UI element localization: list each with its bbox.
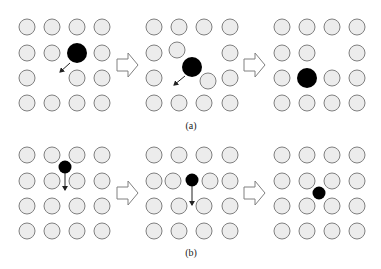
lattice-atom bbox=[349, 45, 365, 61]
lattice-atom bbox=[349, 198, 365, 214]
lattice-atom bbox=[94, 147, 110, 163]
lattice-atom bbox=[299, 198, 315, 214]
lattice-atom bbox=[19, 147, 35, 163]
lattice-atom bbox=[69, 19, 85, 35]
lattice-atom bbox=[299, 19, 315, 35]
lattice-atom bbox=[94, 70, 110, 86]
lattice-atom bbox=[94, 19, 110, 35]
lattice-atom bbox=[324, 173, 340, 189]
lattice-atom bbox=[349, 147, 365, 163]
defect-atom bbox=[186, 174, 199, 187]
lattice-atom bbox=[146, 95, 162, 111]
lattice-atom bbox=[94, 223, 110, 239]
step-arrow-icon bbox=[117, 181, 138, 205]
caption-b: (b) bbox=[185, 247, 197, 259]
diffusion-diagram: (a) (b) bbox=[0, 0, 381, 269]
lattice-atom bbox=[222, 95, 238, 111]
lattice-atom bbox=[69, 147, 85, 163]
motion-arrow-icon bbox=[60, 63, 70, 72]
lattice-atom bbox=[274, 223, 290, 239]
defect-atom bbox=[313, 187, 326, 200]
lattice-atom bbox=[222, 70, 238, 86]
lattice-atom bbox=[274, 147, 290, 163]
lattice-atom bbox=[94, 198, 110, 214]
lattice-atom bbox=[324, 95, 340, 111]
lattice-atom bbox=[196, 19, 212, 35]
lattice-atom bbox=[44, 19, 60, 35]
lattice-atom bbox=[171, 19, 187, 35]
lattice-atom bbox=[196, 147, 212, 163]
step-arrow-icon bbox=[244, 53, 265, 77]
lattice-atom bbox=[222, 147, 238, 163]
lattice-atom bbox=[171, 198, 187, 214]
lattice-atom bbox=[146, 147, 162, 163]
lattice-atom bbox=[19, 223, 35, 239]
lattice-atom bbox=[44, 95, 60, 111]
lattice-atom bbox=[200, 73, 216, 89]
defect-atom bbox=[67, 43, 87, 63]
lattice-atom bbox=[19, 19, 35, 35]
lattice-atom bbox=[202, 173, 218, 189]
lattice-atom bbox=[274, 173, 290, 189]
lattice-atom bbox=[274, 45, 290, 61]
caption-a: (a) bbox=[185, 120, 196, 132]
lattice-atom bbox=[69, 223, 85, 239]
lattice-atom bbox=[44, 45, 60, 61]
defect-atom bbox=[297, 68, 317, 88]
defect-atom bbox=[182, 57, 202, 77]
lattice-atom bbox=[146, 45, 162, 61]
lattice-atom bbox=[19, 45, 35, 61]
lattice-atom bbox=[222, 19, 238, 35]
lattice-atom bbox=[324, 198, 340, 214]
lattice-atom bbox=[19, 198, 35, 214]
lattice-atom bbox=[222, 173, 238, 189]
lattice-atom bbox=[44, 223, 60, 239]
lattice-atom bbox=[19, 95, 35, 111]
step-arrow-icon bbox=[117, 53, 138, 77]
lattice-atom bbox=[165, 173, 181, 189]
lattice-atom bbox=[299, 173, 315, 189]
lattice-atom bbox=[169, 42, 185, 58]
lattice-atom bbox=[146, 70, 162, 86]
lattice-atom bbox=[222, 198, 238, 214]
lattice-atom bbox=[146, 223, 162, 239]
lattice-atom bbox=[349, 95, 365, 111]
lattice-atom bbox=[196, 95, 212, 111]
step-arrow-icon bbox=[244, 181, 265, 205]
lattice-atom bbox=[299, 45, 315, 61]
lattice-atom bbox=[146, 19, 162, 35]
lattice-atom bbox=[274, 19, 290, 35]
lattice-atom bbox=[349, 70, 365, 86]
lattice-atom bbox=[196, 223, 212, 239]
lattice-atom bbox=[44, 147, 60, 163]
lattice-atom bbox=[69, 95, 85, 111]
lattice-atom bbox=[274, 70, 290, 86]
lattice-atom bbox=[146, 173, 162, 189]
lattice-atom bbox=[299, 95, 315, 111]
lattice-atom bbox=[94, 45, 110, 61]
motion-arrow-icon bbox=[174, 76, 185, 85]
lattice-atom bbox=[171, 223, 187, 239]
lattice-atom bbox=[146, 198, 162, 214]
defect-atom bbox=[59, 161, 72, 174]
lattice-atom bbox=[69, 70, 85, 86]
lattice-atom bbox=[171, 95, 187, 111]
lattice-atom bbox=[349, 19, 365, 35]
lattice-atom bbox=[69, 173, 85, 189]
lattice-atom bbox=[299, 223, 315, 239]
lattice-atom bbox=[19, 173, 35, 189]
lattice-atom bbox=[44, 173, 60, 189]
lattice-atom bbox=[324, 223, 340, 239]
lattice-atom bbox=[324, 70, 340, 86]
lattice-atom bbox=[274, 95, 290, 111]
lattice-atom bbox=[222, 223, 238, 239]
lattice-atom bbox=[44, 198, 60, 214]
lattice-atom bbox=[349, 223, 365, 239]
lattice-atom bbox=[299, 147, 315, 163]
lattice-atom bbox=[324, 147, 340, 163]
lattice-atom bbox=[94, 95, 110, 111]
lattice-atom bbox=[349, 173, 365, 189]
lattice-atom bbox=[94, 173, 110, 189]
lattice-atom bbox=[222, 45, 238, 61]
lattice-atom bbox=[19, 70, 35, 86]
